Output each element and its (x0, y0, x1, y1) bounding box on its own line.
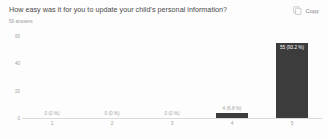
bar-slot: 0 (0 %) (142, 36, 202, 118)
y-tick: 20 (15, 88, 20, 93)
x-tick-1: 1 (22, 121, 82, 133)
bar-category-4[interactable]: 4 (6.8 %) (216, 113, 247, 119)
bar-value-label: 0 (0 %) (45, 111, 60, 116)
survey-response-card: How easy was it for you to update your c… (0, 0, 328, 138)
copy-icon (293, 6, 302, 15)
page-title: How easy was it for you to update your c… (9, 5, 320, 14)
x-axis-labels: 1 2 3 4 5 (22, 121, 322, 133)
bar-slot: 0 (0 %) (82, 36, 142, 118)
chart-header: How easy was it for you to update your c… (9, 5, 320, 25)
bar-category-5[interactable]: 55 (93.2 %) (276, 43, 307, 118)
bar-slot: 4 (6.8 %) (202, 36, 262, 118)
copy-button-label: Copy (306, 8, 319, 14)
x-tick-5: 5 (262, 121, 322, 133)
bar-value-label: 0 (0 %) (165, 111, 180, 116)
bar-slot: 0 (0 %) (22, 36, 82, 118)
y-axis: 60 40 20 0 (0, 36, 22, 118)
bar-slot: 55 (93.2 %) (262, 36, 322, 118)
bars-container: 0 (0 %) 0 (0 %) 0 (0 %) 4 (6.8 %) (22, 36, 322, 118)
y-tick: 40 (15, 61, 20, 66)
y-tick: 60 (15, 34, 20, 39)
y-tick: 0 (17, 116, 20, 121)
bar-chart: 60 40 20 0 0 (0 %) 0 (0 %) 0 (0 %) (0, 36, 328, 138)
copy-button[interactable]: Copy (290, 4, 322, 17)
bar-value-label: 0 (0 %) (105, 111, 120, 116)
x-tick-4: 4 (202, 121, 262, 133)
x-tick-3: 3 (142, 121, 202, 133)
bar-value-label: 4 (6.8 %) (223, 106, 242, 111)
x-axis-line (22, 118, 322, 119)
answers-count: 59 answers (9, 18, 320, 25)
bar-value-label: 55 (93.2 %) (280, 45, 304, 50)
x-tick-2: 2 (82, 121, 142, 133)
